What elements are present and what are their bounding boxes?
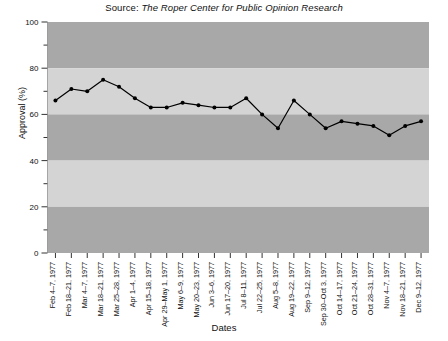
x-axis-tick-label: Aug 19–22, 1977 — [287, 262, 296, 317]
data-point — [276, 126, 280, 130]
y-axis-tick-label: 100 — [25, 18, 39, 27]
data-point — [117, 85, 121, 89]
data-point — [149, 105, 153, 109]
y-axis-tick-label: 40 — [30, 157, 39, 166]
data-point — [260, 112, 264, 116]
x-axis-tick-label: Aug 5–8, 1977 — [271, 262, 280, 309]
x-axis-tick-label: Apr 15–18, 1977 — [144, 262, 153, 315]
data-point — [228, 105, 232, 109]
y-axis-tick-label: 20 — [30, 203, 39, 212]
x-axis-tick-label: Nov 18–21, 1977 — [398, 262, 407, 317]
data-point — [212, 105, 216, 109]
background-band — [48, 22, 430, 68]
background-band — [48, 68, 430, 114]
x-axis-tick-label: Oct 21–24, 1977 — [350, 262, 359, 315]
data-point — [371, 124, 375, 128]
background-band — [48, 207, 430, 253]
x-axis-tick-label: Mar 4–7, 1977 — [80, 262, 89, 308]
data-point — [133, 96, 137, 100]
data-point — [340, 119, 344, 123]
x-axis-tick-label: Sep 9–12, 1977 — [303, 262, 312, 313]
x-axis-tick-label: Mar 25–28, 1977 — [112, 262, 121, 316]
y-axis-tick-label: 0 — [34, 249, 39, 258]
data-point — [69, 87, 73, 91]
data-point — [101, 78, 105, 82]
y-axis-tick-label: 80 — [30, 64, 39, 73]
data-point — [355, 122, 359, 126]
background-band — [48, 114, 430, 160]
data-point — [165, 105, 169, 109]
x-axis-tick-label: Jul 22–25, 1977 — [255, 262, 264, 313]
data-point — [244, 96, 248, 100]
data-point — [308, 112, 312, 116]
x-axis-tick-label: Jun 3–6, 1977 — [207, 262, 216, 308]
background-band — [48, 161, 430, 207]
x-axis-tick-label: May 6–9, 1977 — [176, 262, 185, 310]
x-axis-tick-label: May 20–23, 1977 — [192, 262, 201, 318]
x-axis-tick-label: Oct 28–31, 1977 — [366, 262, 375, 315]
y-axis-tick-label: 60 — [30, 110, 39, 119]
x-axis-tick-label: Nov 4–7, 1977 — [382, 262, 391, 309]
x-axis-tick-label: Jun 17–20, 1977 — [223, 262, 232, 316]
chart-container: Source: The Roper Center for Public Opin… — [0, 0, 448, 341]
data-point — [85, 89, 89, 93]
data-point — [53, 99, 57, 103]
data-point — [403, 124, 407, 128]
x-axis-tick-label: Dec 9–12, 1977 — [414, 262, 423, 313]
x-axis-tick-label: Apr 29–May 1, 1977 — [160, 262, 169, 327]
x-axis-tick-label: Jul 8–11, 1977 — [239, 262, 248, 309]
data-point — [292, 99, 296, 103]
data-point — [181, 101, 185, 105]
x-axis-tick-label: Sep 30–Oct 3, 1977 — [319, 262, 328, 326]
data-point — [197, 103, 201, 107]
data-point — [419, 119, 423, 123]
x-axis-tick-label: Mar 18–21, 1977 — [96, 262, 105, 316]
x-axis-tick-label: Feb 4–7, 1977 — [48, 262, 57, 308]
data-point — [387, 133, 391, 137]
x-axis-tick-label: Apr 1–4, 1977 — [128, 262, 137, 307]
plot-area: 020406080100Feb 4–7, 1977Feb 18–21, 1977… — [0, 0, 448, 341]
x-axis-tick-label: Oct 14–17, 1977 — [335, 262, 344, 315]
x-axis-tick-label: Feb 18–21, 1977 — [64, 262, 73, 316]
data-point — [324, 126, 328, 130]
